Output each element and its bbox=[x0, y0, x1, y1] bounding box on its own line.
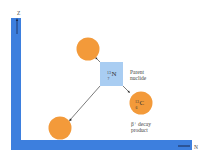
arrowhead-lower-icon bbox=[69, 119, 72, 122]
daughter-element: C bbox=[140, 100, 145, 107]
n-axis-bar bbox=[11, 140, 192, 150]
z-axis-label: Z bbox=[17, 10, 20, 16]
z-axis-bar bbox=[11, 18, 21, 150]
nuclide-upper bbox=[77, 38, 100, 61]
decay-diagram bbox=[0, 0, 208, 160]
daughter-label: β⁺ decay product bbox=[131, 121, 151, 133]
daughter-label-line2: product bbox=[131, 127, 151, 133]
n-axis-label: N bbox=[194, 144, 198, 150]
parent-label-line2: nuclide bbox=[130, 75, 146, 81]
parent-element: N bbox=[112, 71, 117, 78]
arrow-to-daughter bbox=[123, 86, 129, 92]
parent-atomic-number: 7 bbox=[108, 76, 110, 83]
arrow-to-lower bbox=[70, 86, 100, 120]
daughter-atomic-number: 6 bbox=[136, 105, 138, 112]
parent-label: Parent nuclide bbox=[130, 69, 146, 81]
nuclide-lower bbox=[49, 117, 72, 140]
